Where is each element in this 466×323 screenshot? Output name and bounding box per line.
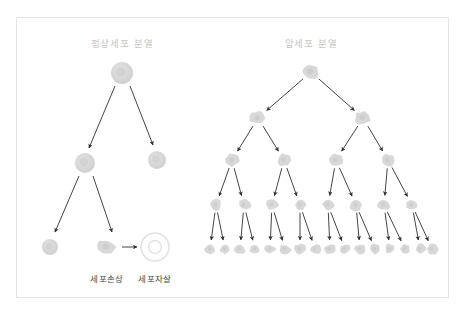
cell-nucleus <box>388 247 392 251</box>
cell-nucleus <box>46 243 53 250</box>
arrow-group <box>55 79 428 247</box>
division-arrow <box>385 168 387 195</box>
division-arrow <box>263 126 278 151</box>
cell-nucleus <box>208 247 212 251</box>
caption-cell-damage: 세포손상 <box>90 272 123 284</box>
division-arrow <box>130 86 153 145</box>
cell-nucleus <box>403 247 407 251</box>
division-arrow <box>89 86 115 148</box>
division-arrow <box>330 168 335 195</box>
figure-canvas: 정상세포 분열 암세포 분열 세포손상 세포자살 <box>0 0 466 323</box>
cell-nucleus <box>152 155 160 163</box>
cell-nucleus <box>268 247 272 251</box>
division-arrow <box>246 212 253 240</box>
division-arrow <box>319 79 355 110</box>
division-arrow <box>392 168 407 197</box>
cell-nucleus <box>333 157 338 162</box>
cancer-cell <box>239 199 252 210</box>
cell-nucleus <box>298 247 302 251</box>
cell-nucleus <box>313 247 317 251</box>
cell-nucleus <box>241 203 245 207</box>
division-arrow <box>359 212 371 241</box>
division-arrow <box>267 79 303 111</box>
caption-apoptosis: 세포자살 <box>138 272 171 284</box>
division-arrow <box>328 213 329 240</box>
cell-nucleus <box>213 203 217 207</box>
division-arrow <box>342 126 358 151</box>
cell-nucleus <box>381 203 385 207</box>
panel-title-normal: 정상세포 분열 <box>91 36 154 50</box>
cell-nucleus <box>269 203 273 207</box>
division-arrow <box>274 168 281 195</box>
cell-nucleus <box>353 203 357 207</box>
cell-nucleus <box>283 247 287 251</box>
cell-nucleus <box>418 247 422 251</box>
cell-nucleus <box>385 157 390 162</box>
cell-nucleus <box>358 247 362 251</box>
division-arrow <box>238 126 253 151</box>
cell-nucleus <box>254 115 259 120</box>
cell-nucleus <box>103 243 109 249</box>
panel-title-cancer: 암세포 분열 <box>285 36 338 50</box>
cell-nucleus <box>328 247 332 251</box>
division-arrow <box>387 212 401 241</box>
apoptosis-ring-inner <box>149 241 162 254</box>
cell-nucleus <box>229 157 234 162</box>
cell-nucleus <box>343 247 347 251</box>
apoptosis-ring <box>141 233 169 261</box>
cell-nucleus <box>297 203 301 207</box>
division-arrow <box>93 176 112 232</box>
cell-nucleus <box>409 203 413 207</box>
division-arrow <box>270 213 271 240</box>
cell-nucleus <box>238 247 242 251</box>
division-arrow <box>211 213 215 240</box>
division-arrow <box>385 213 389 240</box>
division-arrow <box>218 213 224 241</box>
cell-nucleus <box>253 247 257 251</box>
cell-nucleus <box>373 247 377 251</box>
division-arrow <box>219 168 229 196</box>
diagram-artwork <box>0 0 466 323</box>
division-arrow <box>234 168 241 195</box>
division-arrow <box>357 213 359 240</box>
division-arrow <box>241 213 243 240</box>
division-arrow <box>55 176 79 232</box>
division-arrow <box>339 168 352 196</box>
cell-nucleus <box>359 115 364 120</box>
division-arrow <box>331 212 342 240</box>
division-arrow <box>287 168 297 196</box>
division-arrow <box>415 212 428 241</box>
cell-nucleus <box>223 247 227 251</box>
cell-nucleus <box>430 247 434 251</box>
cell-nucleus <box>281 157 286 162</box>
cell-nucleus <box>325 203 329 207</box>
division-arrow <box>302 212 312 240</box>
division-arrow <box>274 212 282 240</box>
cell-nucleus <box>80 158 88 166</box>
cell-group <box>42 62 439 261</box>
cell-nucleus <box>116 67 125 76</box>
cell-nucleus <box>307 68 313 74</box>
division-arrow <box>368 126 383 151</box>
